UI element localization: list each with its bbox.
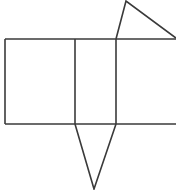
- geometric-net-figure: Geometric net figure Line drawing of an …: [0, 0, 176, 190]
- figure-background: [0, 0, 176, 190]
